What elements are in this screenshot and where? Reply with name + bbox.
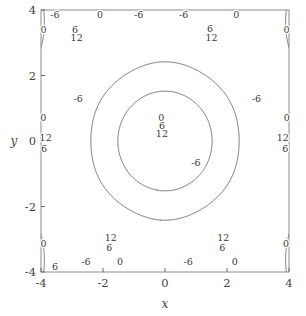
contour-label-6: 6 [219, 242, 225, 253]
contour-label-12: 12 [71, 32, 83, 43]
contour-label-6: 6 [106, 242, 112, 253]
contour-label-0: 0 [233, 9, 239, 20]
y-tick-label: 0 [29, 134, 36, 148]
contour-label-0: 0 [117, 256, 123, 267]
contour-label--6: -6 [74, 93, 83, 104]
axis-ticks-group: -4-2024-4-2024 [25, 3, 293, 290]
contour-inline-labels-group: 66121200-6-6-6-666121200-6-60000-6-60012… [40, 9, 290, 272]
contour-line-level-6 [118, 91, 212, 191]
contour-label-0: 0 [40, 112, 46, 123]
y-axis-title: y [10, 134, 18, 148]
contour-label-6: 6 [41, 143, 47, 154]
contour-label-12: 12 [277, 132, 289, 143]
x-axis-title: x [162, 297, 169, 311]
x-tick-label: -2 [97, 276, 108, 290]
y-tick-label: 4 [29, 3, 36, 17]
contour-label-0: 0 [232, 256, 238, 267]
x-tick-label: 4 [285, 276, 292, 290]
contour-label-0: 0 [97, 9, 103, 20]
x-tick-label: 2 [223, 276, 230, 290]
y-tick-label: 2 [29, 69, 36, 83]
contour-label--6: -6 [81, 256, 90, 267]
contour-label--6: -6 [252, 93, 261, 104]
contour-label-12: 12 [40, 132, 52, 143]
y-tick-label: -2 [25, 200, 36, 214]
contour-label-0: 0 [283, 24, 289, 35]
x-tick-label: -4 [35, 276, 46, 290]
contour-label-6: 6 [282, 143, 288, 154]
contour-plot-figure: -4-2024-4-2024 66121200-6-6-6-666121200-… [0, 0, 306, 316]
contour-line-level-0 [91, 62, 239, 220]
contour-label-0: 0 [283, 238, 289, 249]
contour-label-6: 6 [52, 261, 58, 272]
contour-label-12: 12 [205, 32, 217, 43]
contour-label--6: -6 [184, 256, 193, 267]
contour-label-0: 0 [284, 112, 290, 123]
contour-label--6: -6 [179, 9, 188, 20]
contour-plot-svg: -4-2024-4-2024 66121200-6-6-6-666121200-… [0, 0, 306, 316]
plot-frame [41, 10, 289, 272]
contour-label-0: 0 [40, 238, 46, 249]
contour-label--6: -6 [50, 9, 59, 20]
contour-label-12: 12 [156, 128, 168, 139]
contour-label-0: 0 [40, 24, 46, 35]
y-tick-label: -4 [25, 265, 36, 279]
contour-label--6: -6 [191, 157, 200, 168]
x-tick-label: 0 [161, 276, 168, 290]
contour-label--6: -6 [134, 9, 143, 20]
